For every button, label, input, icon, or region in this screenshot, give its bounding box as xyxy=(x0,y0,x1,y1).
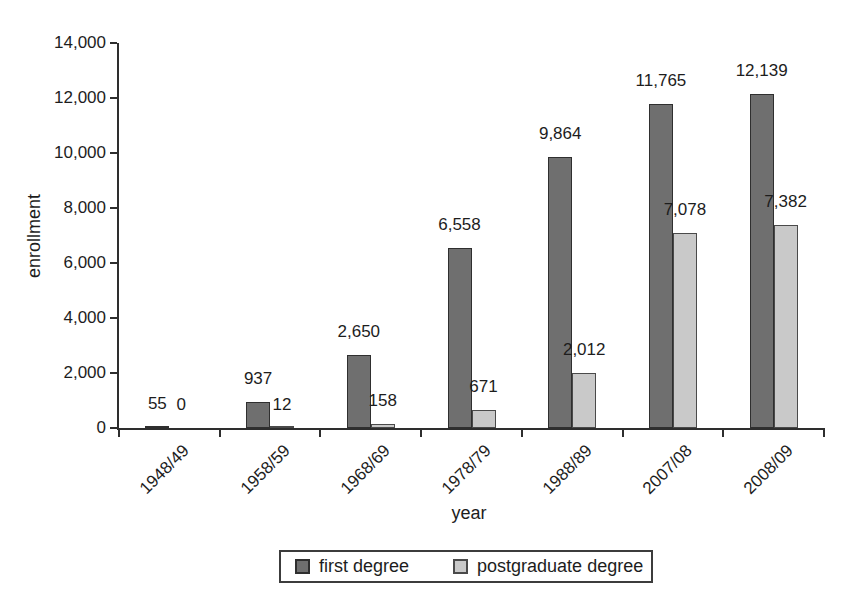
legend-item-postgraduate-degree: postgraduate degree xyxy=(453,556,643,577)
x-category-label: 1968/69 xyxy=(337,441,394,498)
enrollment-bar-chart: enrollment 02,0004,0006,0008,00010,00012… xyxy=(0,0,841,600)
value-label: 12,139 xyxy=(736,61,788,81)
first-degree-bar xyxy=(750,94,774,428)
x-axis-tick xyxy=(521,428,523,437)
x-category-label: 2008/09 xyxy=(740,441,797,498)
postgraduate-degree-bar xyxy=(371,424,395,428)
legend-label-first-degree: first degree xyxy=(319,556,409,577)
value-label: 671 xyxy=(469,377,497,397)
value-label: 2,650 xyxy=(338,322,381,342)
x-axis-tick xyxy=(722,428,724,437)
legend-item-first-degree: first degree xyxy=(295,556,409,577)
first-degree-bar xyxy=(145,426,169,428)
x-axis-tick xyxy=(823,428,825,437)
value-label: 55 xyxy=(148,394,167,414)
y-axis-tick xyxy=(110,317,117,319)
first-degree-bar xyxy=(649,104,673,428)
value-label: 2,012 xyxy=(563,340,606,360)
first-degree-bar xyxy=(548,157,572,428)
first-degree-bar xyxy=(246,402,270,428)
y-axis-tick xyxy=(110,427,117,429)
value-label: 11,765 xyxy=(636,71,687,91)
postgraduate-degree-bar xyxy=(673,233,697,428)
y-tick-label: 14,000 xyxy=(54,33,106,53)
value-label: 9,864 xyxy=(539,124,582,144)
x-category-label: 1978/79 xyxy=(438,441,495,498)
x-category-label: 1948/49 xyxy=(136,441,193,498)
y-tick-label: 6,000 xyxy=(63,253,106,273)
legend-label-postgraduate-degree: postgraduate degree xyxy=(477,556,643,577)
y-axis-tick xyxy=(110,207,117,209)
postgraduate-degree-bar xyxy=(270,426,294,428)
y-tick-label: 0 xyxy=(97,418,106,438)
y-axis-tick xyxy=(110,372,117,374)
value-label: 12 xyxy=(273,395,292,415)
y-tick-label: 12,000 xyxy=(54,88,106,108)
y-tick-label: 8,000 xyxy=(63,198,106,218)
x-axis-tick xyxy=(420,428,422,437)
value-label: 158 xyxy=(369,391,397,411)
y-axis-title: enrollment xyxy=(24,194,44,278)
x-axis-tick xyxy=(118,428,120,437)
postgraduate-degree-bar xyxy=(472,410,496,428)
postgraduate-degree-bar xyxy=(774,225,798,428)
plot-area: 02,0004,0006,0008,00010,00012,00014,0001… xyxy=(117,43,824,430)
postgraduate-degree-swatch xyxy=(453,559,468,574)
first-degree-bar xyxy=(448,248,472,428)
x-category-label: 1988/89 xyxy=(539,441,596,498)
x-axis-tick xyxy=(622,428,624,437)
legend: first degree postgraduate degree xyxy=(279,550,653,583)
y-axis-tick xyxy=(110,262,117,264)
x-category-label: 1958/59 xyxy=(237,441,294,498)
y-axis-tick xyxy=(110,42,117,44)
y-tick-label: 4,000 xyxy=(63,308,106,328)
first-degree-swatch xyxy=(295,559,310,574)
postgraduate-degree-bar xyxy=(572,373,596,428)
value-label: 937 xyxy=(244,369,272,389)
value-label: 7,078 xyxy=(664,200,707,220)
y-tick-label: 10,000 xyxy=(54,143,106,163)
x-axis-tick xyxy=(319,428,321,437)
value-label: 6,558 xyxy=(438,215,481,235)
x-axis-title: year xyxy=(451,503,486,523)
y-axis-tick xyxy=(110,97,117,99)
y-tick-label: 2,000 xyxy=(63,363,106,383)
x-axis-tick xyxy=(219,428,221,437)
first-degree-bar xyxy=(347,355,371,428)
x-category-label: 2007/08 xyxy=(639,441,696,498)
value-label: 7,382 xyxy=(764,192,807,212)
value-label: 0 xyxy=(177,395,186,415)
y-axis-tick xyxy=(110,152,117,154)
